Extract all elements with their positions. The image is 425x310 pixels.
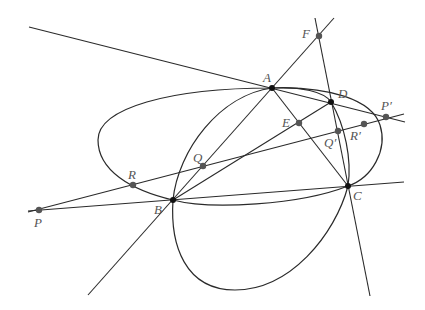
label-R: R bbox=[128, 168, 136, 181]
point-R-prime bbox=[361, 121, 367, 127]
point-Q-prime bbox=[335, 128, 341, 134]
point-D bbox=[328, 99, 334, 105]
point-P bbox=[36, 207, 42, 213]
label-Q-prime: Q′ bbox=[324, 136, 336, 149]
point-R bbox=[130, 182, 136, 188]
label-C: C bbox=[353, 189, 362, 202]
line-F-A-B bbox=[88, 18, 334, 295]
label-A: A bbox=[263, 71, 271, 84]
point-F bbox=[316, 33, 322, 39]
label-P: P bbox=[34, 216, 42, 229]
label-P-prime: P′ bbox=[381, 99, 392, 112]
point-P-prime bbox=[383, 114, 389, 120]
diagram-svg bbox=[0, 0, 425, 310]
label-D: D bbox=[338, 87, 347, 100]
line-A-E-C bbox=[272, 88, 348, 186]
label-R-prime: R′ bbox=[350, 129, 361, 142]
label-E: E bbox=[282, 116, 290, 129]
label-F: F bbox=[302, 27, 310, 40]
label-Q: Q bbox=[193, 151, 202, 164]
line-P-R-Q-R-prime bbox=[28, 114, 404, 212]
line-tangent-A-D-P-prime bbox=[29, 27, 405, 122]
point-B bbox=[170, 197, 176, 203]
point-A bbox=[269, 85, 275, 91]
geometry-diagram: A B C D E F P P′ Q Q′ R R′ bbox=[0, 0, 425, 310]
point-E bbox=[296, 120, 302, 126]
point-C bbox=[345, 183, 351, 189]
line-F-D-C bbox=[315, 18, 370, 296]
label-B: B bbox=[154, 203, 162, 216]
